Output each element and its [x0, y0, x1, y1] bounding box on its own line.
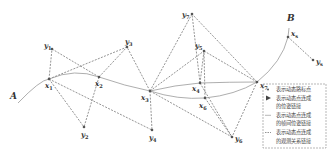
legend-item-text: 的观测关系链接	[276, 137, 311, 145]
node-y6	[231, 136, 234, 139]
observation-edge-xs-ys	[288, 37, 313, 60]
node-label-x3: x3	[140, 93, 149, 103]
observation-edge-x3-y4	[150, 91, 152, 130]
observation-edge-x7-y5	[204, 51, 257, 82]
node-label-x6: x6	[198, 101, 207, 111]
node-x7	[256, 81, 259, 84]
legend: 表示动态路标点表示动态点连成的位姿链接表示动态点连成的帧间位姿链接表示动态点连成…	[263, 84, 326, 148]
observation-edge-x2-y3	[99, 47, 127, 77]
slam-graph-diagram: x1x2x3x4x6x7xsy1y2y3y4y5y6y7ys A B 表示动态路…	[0, 0, 328, 152]
observation-edge-x4-y5	[200, 51, 204, 83]
node-y7	[191, 13, 194, 16]
trajectory-curves	[18, 28, 289, 103]
observation-edge-x3-y7	[150, 14, 192, 91]
end-label: B	[286, 13, 295, 23]
legend-item-text: 表示动态路标点	[276, 85, 311, 93]
node-ys	[312, 59, 315, 62]
legend-item-text: 表示动态点连成	[276, 94, 311, 102]
observation-edge-x6-y6	[205, 98, 232, 137]
node-x4	[199, 82, 202, 85]
node-label-y1: y1	[43, 41, 52, 51]
node-y2	[83, 126, 86, 129]
node-label-y2: y2	[80, 130, 89, 140]
node-label-x4: x4	[191, 84, 200, 94]
observation-edge-x7-y6	[232, 82, 257, 137]
node-label-xs: xs	[290, 29, 298, 39]
node-label-y5: y5	[194, 41, 203, 51]
node-y3	[126, 46, 129, 49]
legend-symbol-dot	[267, 89, 269, 91]
start-label: A	[9, 91, 17, 101]
node-label-x7: x7	[259, 81, 268, 91]
node-label-y4: y4	[148, 133, 157, 143]
observation-edge-x6-y5	[204, 51, 205, 98]
legend-item-text: 表示动态点连成	[276, 111, 311, 119]
node-label-y3: y3	[124, 37, 133, 47]
node-x3	[149, 90, 152, 93]
node-x6	[204, 97, 207, 100]
observation-edges	[49, 14, 313, 137]
legend-item-text: 的位姿链接	[276, 102, 301, 110]
node-label-x2: x2	[94, 79, 103, 89]
legend-item-text: 的帧间位姿链接	[276, 119, 311, 127]
node-label-ys: ys	[315, 57, 323, 67]
node-x2	[98, 76, 101, 79]
legend-symbol-arrow	[266, 96, 271, 101]
observation-edge-x3-y3	[127, 47, 150, 91]
node-label-y6: y6	[234, 134, 243, 144]
observation-edge-x1-y2	[49, 79, 84, 127]
node-label-y7: y7	[181, 10, 190, 20]
secondary-trajectory	[150, 82, 257, 98]
node-x1	[48, 78, 51, 81]
legend-item-text: 表示动态点连成	[276, 128, 311, 136]
node-y4	[151, 129, 154, 132]
node-xs	[287, 36, 290, 39]
node-y5	[203, 50, 206, 53]
observation-edge-x1-y1	[49, 49, 52, 79]
